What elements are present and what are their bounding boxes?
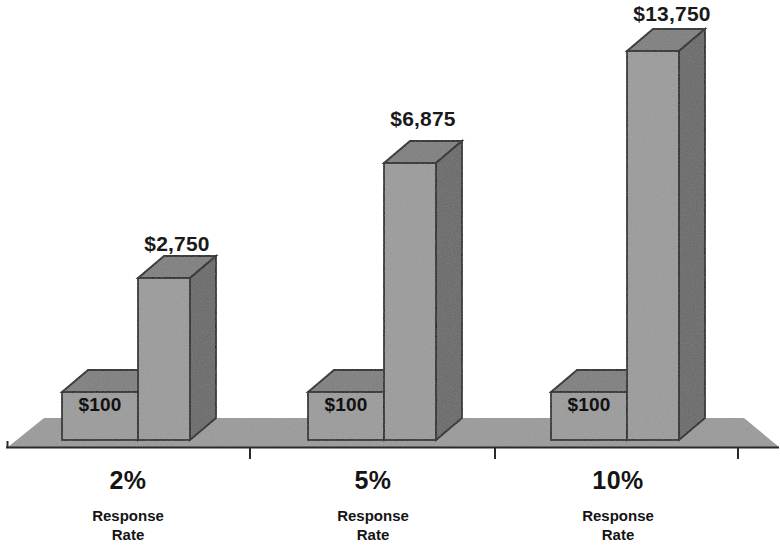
axis-label-percent: 5% bbox=[337, 468, 409, 493]
value-label-5pct-cost: $100 bbox=[324, 394, 367, 416]
value-label-2pct-cost: $100 bbox=[78, 394, 121, 416]
axis-label-group-2pct: 2% Response Rate bbox=[92, 468, 164, 545]
axis-label-percent: 10% bbox=[582, 468, 654, 493]
bar-2pct-return bbox=[138, 256, 216, 440]
bar-side-face bbox=[436, 141, 462, 440]
bar-side-face bbox=[679, 29, 705, 440]
axis-sublabel-line2: Rate bbox=[92, 526, 164, 545]
value-label-10pct-return: $13,750 bbox=[633, 2, 710, 26]
value-label-5pct-return: $6,875 bbox=[390, 107, 455, 131]
axis-sublabel-line1: Response bbox=[337, 507, 409, 526]
axis-sublabel-line1: Response bbox=[92, 507, 164, 526]
axis-label-sublabel: Response Rate bbox=[92, 507, 164, 545]
bar-5pct-return bbox=[384, 141, 462, 440]
bar-front-face bbox=[138, 278, 190, 440]
axis-label-percent: 2% bbox=[92, 468, 164, 493]
bar-chart-figure: $2,750 $6,875 $13,750 $100 $100 $100 2% … bbox=[0, 0, 780, 559]
axis-sublabel-line1: Response bbox=[582, 507, 654, 526]
axis-label-group-10pct: 10% Response Rate bbox=[582, 468, 654, 545]
bar-front-face bbox=[384, 163, 436, 440]
bar-side-face bbox=[190, 256, 216, 440]
value-label-2pct-return: $2,750 bbox=[144, 232, 209, 256]
bar-front-face bbox=[627, 51, 679, 440]
axis-label-sublabel: Response Rate bbox=[582, 507, 654, 545]
axis-sublabel-line2: Rate bbox=[337, 526, 409, 545]
axis-label-sublabel: Response Rate bbox=[337, 507, 409, 545]
axis-label-group-5pct: 5% Response Rate bbox=[337, 468, 409, 545]
value-label-10pct-cost: $100 bbox=[567, 394, 610, 416]
bar-10pct-return bbox=[627, 29, 705, 440]
axis-sublabel-line2: Rate bbox=[582, 526, 654, 545]
bar-group-10pct bbox=[551, 29, 705, 440]
